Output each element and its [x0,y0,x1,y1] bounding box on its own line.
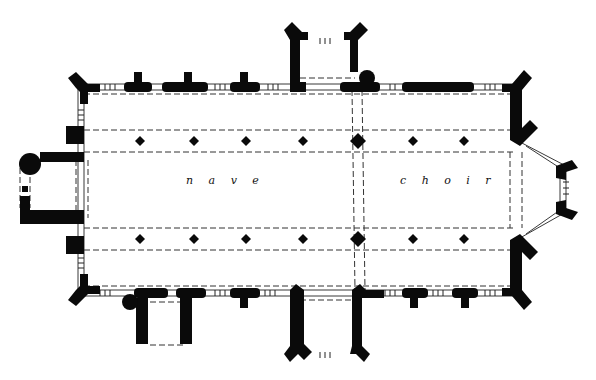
wall-outlines [78,84,566,296]
choir-label: c h o i r [400,174,497,187]
vault-lines [20,78,522,345]
walls [19,22,578,362]
nave-label: n a v e [186,174,265,187]
floor-plan-drawing [0,0,596,380]
piers [135,133,469,247]
floor-plan: n a v e c h o i r [0,0,596,380]
